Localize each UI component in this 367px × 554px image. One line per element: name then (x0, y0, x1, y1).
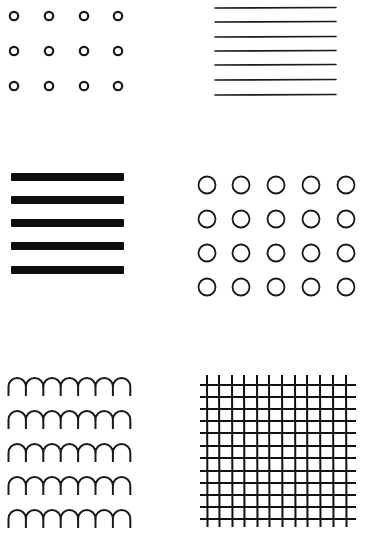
thin-line (215, 80, 336, 81)
thin-line (215, 37, 336, 38)
large-circle-icon (338, 279, 355, 296)
thick-bar (11, 219, 124, 227)
thin-line (215, 8, 336, 9)
small-circle-icon (10, 82, 18, 90)
small-circle-icon (10, 12, 18, 20)
thin-line (215, 95, 336, 96)
pattern-figure (0, 0, 367, 554)
small-circle-icon (45, 82, 53, 90)
large-circle-icon (303, 177, 320, 194)
large-circle-icon (268, 245, 285, 262)
thick-bars-pattern (11, 173, 124, 274)
thick-bar (11, 173, 124, 181)
small-circle-icon (114, 12, 122, 20)
large-circle-icon (233, 245, 250, 262)
large-circle-icon (233, 279, 250, 296)
small-circle-icon (80, 47, 88, 55)
small-circles-pattern (10, 12, 122, 90)
large-circle-icon (199, 245, 216, 262)
small-circle-icon (45, 12, 53, 20)
small-circle-icon (80, 82, 88, 90)
small-circle-icon (114, 47, 122, 55)
large-circle-icon (268, 177, 285, 194)
large-circle-icon (268, 279, 285, 296)
thick-bar (11, 266, 124, 274)
thick-bar (11, 196, 124, 204)
crosshatch-grid-pattern (200, 375, 356, 527)
small-circle-icon (114, 82, 122, 90)
large-circle-icon (199, 279, 216, 296)
small-circle-icon (10, 47, 18, 55)
large-circle-icon (268, 211, 285, 228)
large-circle-icon (338, 245, 355, 262)
thin-line (215, 22, 336, 23)
thin-lines-pattern (215, 8, 336, 96)
small-circle-icon (45, 47, 53, 55)
large-circle-icon (233, 211, 250, 228)
large-circle-icon (338, 211, 355, 228)
large-circle-icon (338, 177, 355, 194)
large-circle-icon (303, 211, 320, 228)
thick-bar (11, 242, 124, 250)
large-circle-icon (233, 177, 250, 194)
thin-line (215, 51, 336, 52)
thin-line (215, 65, 336, 66)
large-circle-icon (199, 177, 216, 194)
scallop-arches-pattern (9, 378, 131, 528)
small-circle-icon (80, 12, 88, 20)
large-circle-icon (303, 245, 320, 262)
large-circle-icon (303, 279, 320, 296)
large-circle-icon (199, 211, 216, 228)
large-circles-pattern (199, 177, 355, 296)
pattern-canvas (0, 0, 367, 554)
